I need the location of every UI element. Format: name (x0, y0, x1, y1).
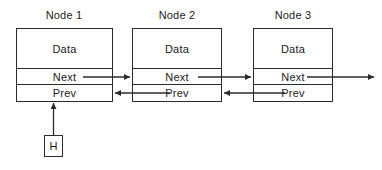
head-pointer-box: H (44, 135, 63, 157)
node-3-prev-cell: Prev (254, 84, 332, 100)
node-3-next-cell: Next (254, 68, 332, 84)
node-2-next-cell: Next (133, 68, 221, 84)
node-2-box: Data Next Prev (132, 28, 222, 102)
node-1-next-cell: Next (17, 68, 112, 84)
node-3-data-cell: Data (254, 29, 332, 68)
node-1-title: Node 1 (16, 9, 112, 21)
node-1-prev-cell: Prev (17, 84, 112, 100)
node-3-box: Data Next Prev (253, 28, 333, 102)
node-1-data-cell: Data (17, 29, 112, 68)
node-2-title: Node 2 (132, 9, 222, 21)
node-2-prev-cell: Prev (133, 84, 221, 100)
node-1-box: Data Next Prev (16, 28, 113, 102)
node-3-title: Node 3 (253, 9, 333, 21)
node-2-data-cell: Data (133, 29, 221, 68)
doubly-linked-list-diagram: Node 1 Node 2 Node 3 Data Next Prev Data… (0, 0, 382, 170)
